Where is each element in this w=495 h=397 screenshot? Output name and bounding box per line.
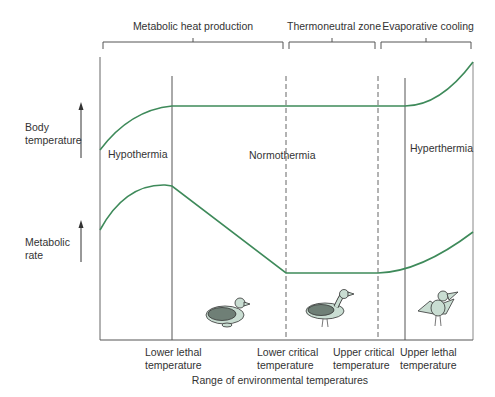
region-label-hypothermia: Hypothermia [108, 148, 168, 161]
marker-label-upper-critical-line1: Upper critical [333, 346, 394, 359]
neutral-duck-icon [306, 290, 354, 328]
zone-label-evaporative: Evaporative cooling [381, 20, 475, 33]
diagram-canvas [0, 0, 495, 397]
body-temp-arrow-icon [79, 102, 84, 158]
y-label-metabolic-rate-line2: rate [25, 249, 43, 262]
y-label-body-temperature-line1: Body [25, 121, 49, 134]
bracket-thermoneutral [289, 38, 375, 49]
zone-label-metabolic-heat: Metabolic heat production [128, 20, 258, 33]
hot-bird-icon [418, 291, 458, 326]
cold-duck-icon [206, 298, 250, 327]
marker-label-upper-lethal-line2: temperature [400, 359, 457, 372]
marker-label-upper-critical-line2: temperature [333, 359, 390, 372]
marker-label-upper-lethal-line1: Upper lethal [400, 346, 457, 359]
region-label-normothermia: Normothermia [249, 149, 316, 162]
marker-label-lower-lethal-line2: temperature [145, 359, 202, 372]
x-axis-label: Range of environmental temperatures [180, 374, 380, 387]
bracket-metabolic-heat [103, 38, 283, 49]
y-label-metabolic-rate-line1: Metabolic [25, 236, 70, 249]
zone-label-thermoneutral: Thermoneutral zone [287, 20, 379, 33]
region-label-hyperthermia: Hyperthermia [410, 142, 473, 155]
marker-label-lower-lethal-line1: Lower lethal [145, 346, 202, 359]
y-label-body-temperature-line2: temperature [25, 134, 82, 147]
bracket-evaporative [381, 38, 471, 49]
marker-label-lower-critical-line1: Lower critical [257, 346, 318, 359]
marker-label-lower-critical-line2: temperature [257, 359, 314, 372]
metabolic-arrow-icon [79, 220, 84, 262]
